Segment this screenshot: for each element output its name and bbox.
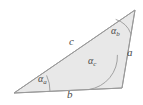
side-label-a: a [127,47,133,58]
triangle-figure: b c a αa αb αc [0,0,143,105]
angle-label-alpha-b: αb [111,26,120,36]
angle-label-alpha-c: αc [88,56,96,66]
angle-subscript-a: a [43,78,47,86]
angle-subscript-c: c [93,60,96,68]
angle-subscript-b: b [116,30,120,38]
angle-label-alpha-a: αa [38,74,47,84]
side-label-b: b [67,89,73,100]
side-label-c: c [69,36,74,47]
